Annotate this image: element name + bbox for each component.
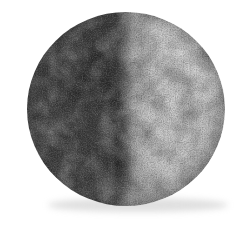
moon-image bbox=[0, 0, 245, 227]
moon-photo bbox=[0, 0, 245, 227]
limb-shading bbox=[27, 12, 225, 206]
